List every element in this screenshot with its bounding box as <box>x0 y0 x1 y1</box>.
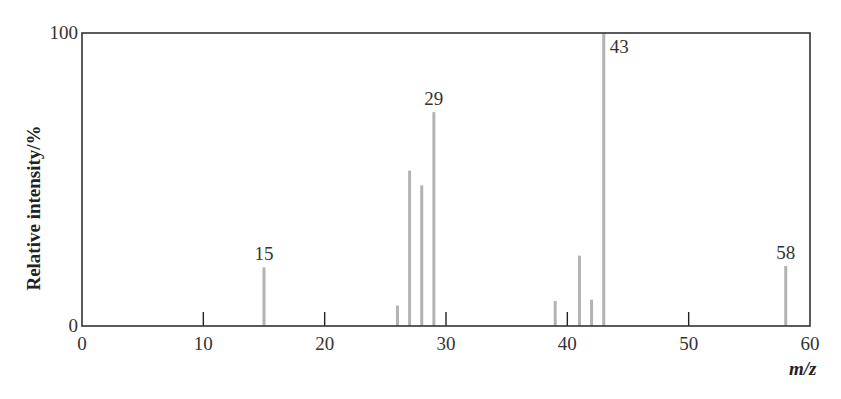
x-tick-label: 40 <box>558 333 577 354</box>
y-tick-label: 0 <box>69 315 79 336</box>
mass-spectrum-chart: 0102030405060 0100 15294358 <box>0 0 841 399</box>
x-tick-label: 0 <box>77 333 87 354</box>
x-tick-label: 50 <box>679 333 698 354</box>
x-tick-label: 60 <box>801 333 820 354</box>
y-axis-label: Relative intensity/% <box>23 125 45 290</box>
peak-labels: 15294358 <box>255 36 796 264</box>
x-tick-label: 10 <box>194 333 213 354</box>
spectrum-peaks <box>264 33 786 326</box>
peak-label: 58 <box>776 242 795 263</box>
x-tick-label: 30 <box>437 333 456 354</box>
x-axis-label: m/z <box>789 358 816 380</box>
y-axis-tick-labels: 0100 <box>50 22 79 336</box>
x-tick-label: 20 <box>315 333 334 354</box>
x-axis-ticks <box>203 312 688 326</box>
x-axis-tick-labels: 0102030405060 <box>77 333 819 354</box>
peak-label: 29 <box>424 88 443 109</box>
peak-label: 15 <box>255 243 274 264</box>
plot-frame <box>82 33 810 326</box>
y-tick-label: 100 <box>50 22 79 43</box>
peak-label: 43 <box>610 36 629 57</box>
